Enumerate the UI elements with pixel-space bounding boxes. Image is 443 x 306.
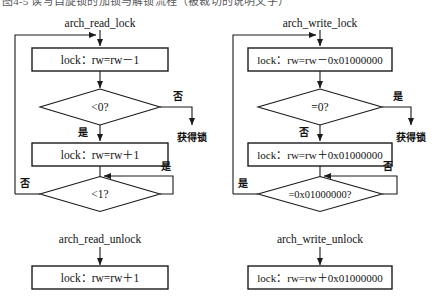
node-read-lock-spin-test-label: <1?: [91, 188, 108, 200]
node-read-lock-inc-label: lock：rw=rw＋1: [61, 149, 140, 161]
flowchart-page: 图4-5 读写自旋锁的加锁与解锁流程（被裁切的说明文字） arch_read_l…: [0, 0, 443, 306]
right-unlock-title: arch_write_unlock: [277, 233, 363, 245]
node-write-unlock-label: lock：rw=rw＋0x01000000: [257, 272, 383, 284]
edge-left-test-no-label: 否: [172, 91, 183, 102]
edge-left-test-no: [160, 107, 192, 125]
edge-right-test-yes-label: 是: [392, 91, 403, 102]
flowchart-svg: arch_read_lock lock：rw=rw－1 <0? 否 获得锁 是 …: [0, 0, 443, 306]
node-read-lock-dec-label: lock：rw=rw－1: [61, 54, 140, 66]
edge-right-spin-yes-label: 是: [237, 178, 248, 189]
node-write-lock-sub-label: lock：rw=rw－0x01000000: [257, 54, 383, 66]
edge-right-spin-no-label: 否: [382, 161, 393, 172]
left-terminal-acquired-lock: 获得锁: [176, 131, 207, 143]
edge-right-test-no-label: 否: [298, 127, 309, 138]
node-read-unlock-label: lock：rw=rw＋1: [61, 272, 140, 284]
edge-left-spin-yes-label: 是: [160, 161, 171, 172]
node-write-lock-add-label: lock：rw=rw＋0x01000000: [257, 149, 383, 161]
right-flow-title: arch_write_lock: [283, 17, 358, 29]
edge-left-test-yes-label: 是: [77, 127, 88, 138]
node-read-lock-test-neg-label: <0?: [91, 101, 108, 113]
left-unlock-title: arch_read_unlock: [59, 233, 142, 245]
node-write-lock-test-zero-label: =0?: [311, 101, 328, 113]
left-flow-title: arch_read_lock: [65, 17, 136, 29]
right-terminal-acquired-lock: 获得锁: [395, 131, 426, 143]
edge-right-test-yes: [382, 107, 411, 125]
edge-left-spin-no-label: 否: [19, 178, 30, 189]
node-write-lock-spin-test-label: =0x01000000?: [288, 189, 351, 200]
